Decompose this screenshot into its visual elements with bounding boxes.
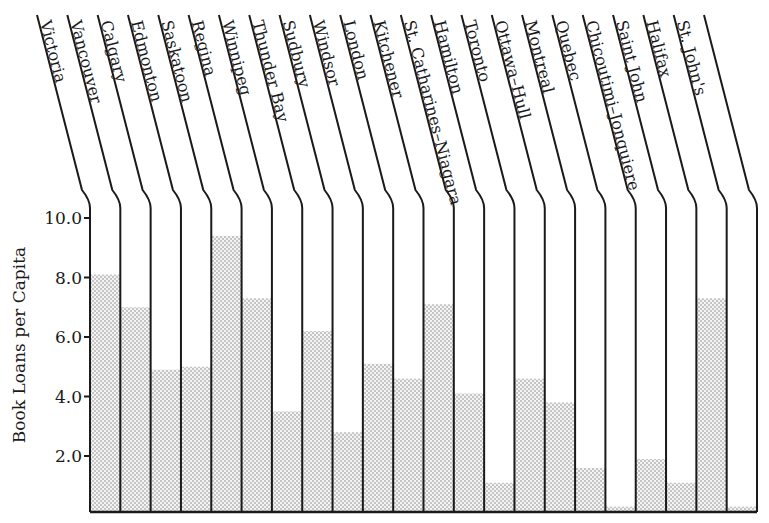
bar-chart: VictoriaVancouverCalgaryEdmontonSaskatoo… [0, 0, 769, 523]
category-label: Toronto [461, 18, 495, 83]
y-tick-label: 10.0 [44, 208, 82, 228]
bar [484, 483, 514, 512]
bar [242, 298, 272, 512]
bar [666, 483, 696, 512]
bar [424, 304, 454, 512]
bar [393, 379, 423, 512]
y-tick-label: 6.0 [55, 327, 82, 347]
bar [181, 367, 211, 512]
bar [211, 236, 241, 512]
bar [545, 402, 575, 512]
y-ticks: 10.08.06.04.02.0 [44, 208, 90, 466]
bar [363, 364, 393, 512]
category-label: Quebec [552, 18, 586, 82]
bar [120, 307, 150, 512]
category-label: Windsor [309, 18, 344, 88]
category-label: St. John's [673, 18, 711, 97]
bar [636, 459, 666, 512]
bar [90, 275, 120, 512]
category-label: Sudbury [279, 18, 315, 89]
category-label: London [339, 18, 373, 82]
column-divider [37, 15, 90, 512]
category-label: Victoria [36, 17, 71, 85]
bar [514, 379, 544, 512]
category-label: Halifax [642, 18, 675, 79]
category-label: Calgary [97, 18, 131, 84]
bar [272, 411, 302, 512]
column-labels: VictoriaVancouverCalgaryEdmontonSaskatoo… [36, 17, 710, 207]
category-label: Regina [188, 18, 221, 78]
y-tick-label: 4.0 [55, 387, 82, 407]
y-tick-label: 8.0 [55, 268, 82, 288]
bar [333, 432, 363, 512]
y-tick-label: 2.0 [55, 446, 82, 466]
bar [454, 394, 484, 512]
bar [696, 298, 726, 512]
category-label: Winnipeg [218, 18, 256, 97]
bar [302, 331, 332, 512]
bar [575, 468, 605, 512]
bar [151, 370, 181, 512]
column-divider [643, 15, 696, 512]
